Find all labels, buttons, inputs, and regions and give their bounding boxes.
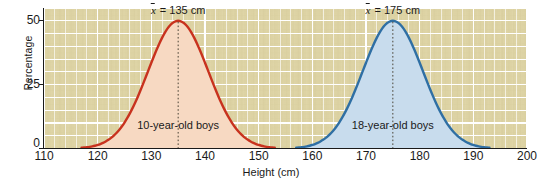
- x-tick-label: 120: [78, 149, 118, 163]
- x-tick-label: 180: [400, 149, 440, 163]
- x-bar-symbol: x: [151, 4, 157, 16]
- plot-background: [44, 8, 527, 148]
- mean-annotation-text: = 135 cm: [157, 4, 206, 16]
- paper-texture: [44, 8, 527, 149]
- y-tick-label: 0: [14, 136, 40, 150]
- mean-annotation: x = 175 cm: [366, 4, 421, 16]
- x-tick-label: 140: [185, 149, 225, 163]
- y-tick-label: 50: [14, 13, 40, 27]
- x-tick-label: 200: [507, 149, 542, 163]
- x-axis-title: Height (cm): [0, 166, 542, 178]
- series-label: 18-year-old boys: [352, 119, 434, 131]
- x-tick-label: 160: [292, 149, 332, 163]
- x-tick-label: 110: [24, 149, 64, 163]
- x-tick-label: 190: [453, 149, 493, 163]
- x-tick-label: 170: [346, 149, 386, 163]
- x-tick-label: 130: [131, 149, 171, 163]
- x-axis-tick-labels: 110120130140150160170180190200: [0, 149, 542, 167]
- mean-annotation-text: = 175 cm: [371, 4, 420, 16]
- y-tick-label: 25: [14, 77, 40, 91]
- series-label: 10-year-old boys: [137, 119, 219, 131]
- mean-annotation: x = 135 cm: [151, 4, 206, 16]
- chart-figure: Percentage 02550 11012013014015016017018…: [0, 0, 542, 185]
- x-tick-label: 150: [239, 149, 279, 163]
- x-bar-symbol: x: [366, 4, 372, 16]
